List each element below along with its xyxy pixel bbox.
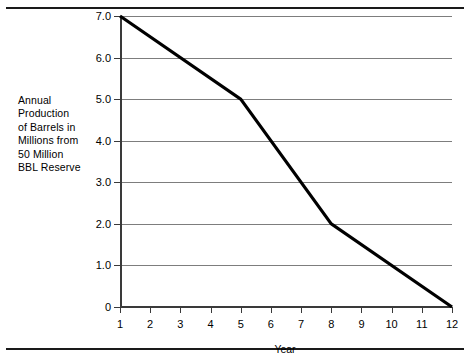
y-axis-title-line: 50 Million (18, 148, 104, 161)
y-axis-title-line: BBL Reserve (18, 161, 104, 174)
x-tick-label: 11 (416, 318, 427, 330)
y-axis-title-line: Millions from (18, 134, 104, 147)
x-tick-label: 8 (328, 318, 334, 330)
x-tick (211, 307, 212, 313)
chart-figure: Annual Production of Barrels in Millions… (0, 0, 470, 363)
x-tick-label: 12 (446, 318, 458, 330)
x-tick (301, 307, 302, 313)
y-tick-label: 6.0 (96, 52, 111, 64)
top-rule (6, 7, 464, 9)
x-tick-label: 1 (117, 318, 123, 330)
x-tick (331, 307, 332, 313)
x-tick-label: 6 (268, 318, 274, 330)
x-tick (271, 307, 272, 313)
y-tick-label: 4.0 (96, 135, 111, 147)
x-tick-label: 10 (386, 318, 398, 330)
y-tick-label: 2.0 (96, 218, 111, 230)
x-tick (452, 307, 453, 313)
y-axis-title: Annual Production of Barrels in Millions… (18, 94, 104, 174)
x-tick-label: 3 (177, 318, 183, 330)
y-axis-title-line: Annual (18, 94, 104, 107)
x-axis-title-label: Year (274, 343, 295, 355)
y-tick-label: 3.0 (96, 176, 111, 188)
x-tick-label: 7 (298, 318, 304, 330)
x-tick-label: 5 (238, 318, 244, 330)
x-tick (150, 307, 151, 313)
x-tick (120, 307, 121, 313)
x-tick-label: 9 (358, 318, 364, 330)
x-tick-label: 2 (147, 318, 153, 330)
bottom-rule (6, 348, 464, 350)
y-axis-title-line: of Barrels in (18, 121, 104, 134)
x-tick (241, 307, 242, 313)
y-tick-label: 5.0 (96, 93, 111, 105)
x-tick (392, 307, 393, 313)
y-axis-title-line: Production (18, 107, 104, 120)
y-tick-label: 1.0 (96, 259, 111, 271)
x-tick-label: 4 (207, 318, 213, 330)
plot-area: 01.02.03.04.05.06.07.0 123456789101112 Y… (120, 16, 452, 307)
x-tick (361, 307, 362, 313)
data-series-line (120, 16, 452, 307)
x-tick (180, 307, 181, 313)
x-tick (422, 307, 423, 313)
y-tick-label: 0 (105, 301, 111, 313)
y-tick-label: 7.0 (96, 10, 111, 22)
